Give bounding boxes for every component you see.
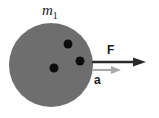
mass-label: m1	[42, 3, 58, 21]
mass-subscript: 1	[53, 10, 58, 21]
force-label: F	[107, 44, 114, 56]
force-diagram	[0, 0, 159, 118]
ball-hole	[50, 64, 59, 73]
ball-hole	[64, 40, 73, 49]
force-arrow-icon	[92, 58, 146, 67]
acceleration-label: a	[94, 74, 101, 86]
mass-symbol: m	[42, 2, 53, 18]
ball-hole	[76, 57, 85, 66]
